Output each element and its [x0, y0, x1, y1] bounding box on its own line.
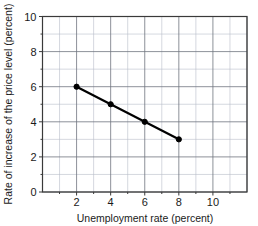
x-tick-label: 10	[207, 196, 219, 208]
line-chart: 246810 0246810 Unemployment rate (percen…	[0, 0, 258, 226]
y-axis-tick-labels: 0246810	[24, 11, 36, 199]
x-axis-title: Unemployment rate (percent)	[77, 212, 214, 224]
data-point-marker	[142, 119, 147, 124]
x-tick-label: 6	[142, 196, 148, 208]
data-point-marker	[108, 102, 113, 107]
x-tick-label: 8	[176, 196, 182, 208]
data-point-marker	[74, 84, 79, 89]
chart-container: 246810 0246810 Unemployment rate (percen…	[0, 0, 258, 226]
y-tick-label: 8	[30, 46, 36, 58]
data-point-marker	[176, 137, 181, 142]
axis-tick-marks	[39, 17, 230, 196]
y-tick-label: 10	[24, 11, 36, 23]
y-axis-title: Rate of increase of the price level (per…	[2, 4, 14, 205]
y-tick-label: 2	[30, 151, 36, 163]
x-tick-label: 4	[108, 196, 114, 208]
x-axis-tick-labels: 246810	[74, 196, 220, 208]
y-tick-label: 0	[30, 186, 36, 198]
x-tick-label: 2	[74, 196, 80, 208]
y-tick-label: 6	[30, 81, 36, 93]
y-tick-label: 4	[30, 116, 36, 128]
